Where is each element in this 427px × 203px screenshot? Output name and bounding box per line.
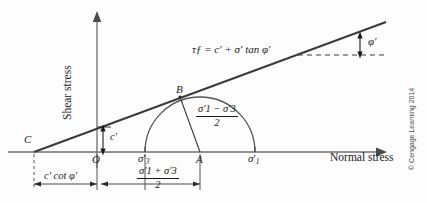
circle-radius-numerator: σ′1 − σ′3	[196, 104, 238, 117]
cohesion-label: c′	[110, 132, 117, 143]
center-distance-denominator: 2	[137, 179, 179, 191]
point-label-o: O	[92, 154, 100, 165]
sigma3-axis-label: σ′3	[138, 153, 150, 166]
y-axis-arrowhead	[93, 11, 101, 22]
x-axis-title-text: Normal stress	[330, 152, 394, 164]
point-label-b: B	[176, 84, 183, 95]
circle-radius-fraction: σ′1 − σ′3 2	[196, 104, 238, 128]
point-label-c: C	[24, 134, 31, 145]
point-label-a: A	[196, 154, 203, 165]
y-axis-title-text: Shear stress	[62, 65, 74, 120]
y-axis	[93, 11, 101, 168]
failure-envelope-line	[34, 22, 386, 152]
failure-envelope-equation: τƒ = c′ + σ′ tan φ′	[192, 44, 270, 55]
friction-angle-label: φ′	[368, 36, 377, 47]
ccot-dimension-line	[34, 181, 97, 186]
ccot-dimension-label: c′ cot φ′	[44, 171, 77, 182]
y-axis-title: Shear stress	[62, 30, 76, 120]
mohr-coulomb-failure-envelope-figure: Shear stress Normal stress © Cengage Lea…	[0, 0, 427, 203]
sigma1-axis-label: σ′1	[248, 153, 260, 166]
sigma1-subscript: 1	[256, 157, 260, 166]
copyright-credit: © Cengage Learning 2014	[408, 96, 420, 170]
center-distance-numerator: σ′1 + σ′3	[137, 166, 179, 179]
center-distance-fraction: σ′1 + σ′3 2	[137, 166, 179, 190]
tangency-point-b-marker	[178, 95, 181, 98]
circle-radius-denominator: 2	[196, 117, 238, 129]
copyright-credit-text: © Cengage Learning 2014	[408, 88, 415, 170]
